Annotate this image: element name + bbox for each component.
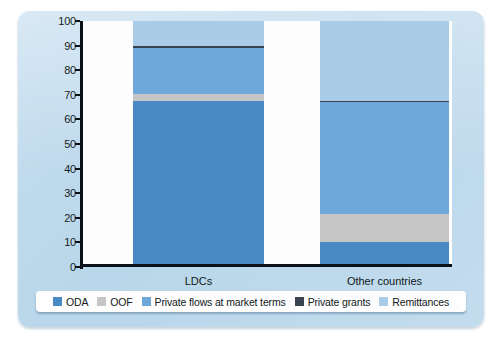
y-axis-tick-labels: 0102030405060708090100 <box>46 21 76 267</box>
legend-item-private-flows-at-market-terms[interactable]: Private flows at market terms <box>142 296 286 308</box>
y-tick-label-70: 70 <box>46 89 76 101</box>
legend-label: Remittances <box>392 296 449 308</box>
y-tick-label-10: 10 <box>46 236 76 248</box>
y-tick-mark-20 <box>75 217 80 219</box>
y-tick-mark-50 <box>75 143 80 145</box>
bar-segment-oda[interactable] <box>133 101 264 267</box>
bar-segment-private-grants[interactable] <box>133 46 264 48</box>
legend-label: Private flows at market terms <box>155 296 286 308</box>
x-category-label: LDCs <box>133 275 264 287</box>
y-tick-label-100: 100 <box>46 15 76 27</box>
y-tick-mark-70 <box>75 94 80 96</box>
chart-figure: Share of total external finance % 010203… <box>0 0 502 339</box>
bar-segment-oof[interactable] <box>320 214 449 242</box>
legend-swatch-icon <box>97 297 106 306</box>
legend-item-remittances[interactable]: Remittances <box>379 296 449 308</box>
y-tick-label-40: 40 <box>46 163 76 175</box>
y-tick-label-0: 0 <box>46 261 76 273</box>
y-tick-label-80: 80 <box>46 64 76 76</box>
legend-swatch-icon <box>295 297 304 306</box>
y-tick-label-30: 30 <box>46 187 76 199</box>
x-category-label: Other countries <box>320 275 449 287</box>
x-axis-line <box>80 264 452 267</box>
y-tick-mark-40 <box>75 168 80 170</box>
legend-item-oda[interactable]: ODA <box>53 296 88 308</box>
bar-segment-private-flows-at-market-terms[interactable] <box>320 102 449 214</box>
legend-item-oof[interactable]: OOF <box>97 296 132 308</box>
bar-segment-private-flows-at-market-terms[interactable] <box>133 48 264 94</box>
y-tick-label-90: 90 <box>46 40 76 52</box>
legend-swatch-icon <box>53 297 62 306</box>
legend-swatch-icon <box>379 297 388 306</box>
bar-group-ldcs: LDCs <box>133 21 264 267</box>
stacked-bar[interactable] <box>133 21 264 267</box>
chart-legend: ODAOOFPrivate flows at market termsPriva… <box>36 291 466 312</box>
legend-swatch-icon <box>142 297 151 306</box>
bar-segment-remittances[interactable] <box>320 21 449 101</box>
legend-label: ODA <box>66 296 88 308</box>
bar-segment-private-grants[interactable] <box>320 101 449 102</box>
plot-area: LDCsOther countries <box>83 21 452 267</box>
y-tick-label-50: 50 <box>46 138 76 150</box>
y-tick-mark-80 <box>75 69 80 71</box>
y-tick-mark-60 <box>75 118 80 120</box>
legend-label: Private grants <box>308 296 371 308</box>
bar-segment-remittances[interactable] <box>133 21 264 46</box>
y-tick-mark-100 <box>75 20 80 22</box>
y-tick-label-20: 20 <box>46 212 76 224</box>
y-tick-mark-30 <box>75 192 80 194</box>
stacked-bar[interactable] <box>320 21 449 267</box>
y-tick-label-60: 60 <box>46 113 76 125</box>
y-tick-mark-10 <box>75 241 80 243</box>
plot-container: Share of total external finance % 010203… <box>80 21 452 277</box>
legend-label: OOF <box>110 296 132 308</box>
bar-group-other-countries: Other countries <box>320 21 449 267</box>
legend-item-private-grants[interactable]: Private grants <box>295 296 371 308</box>
bar-segment-oof[interactable] <box>133 94 264 101</box>
y-tick-mark-90 <box>75 45 80 47</box>
